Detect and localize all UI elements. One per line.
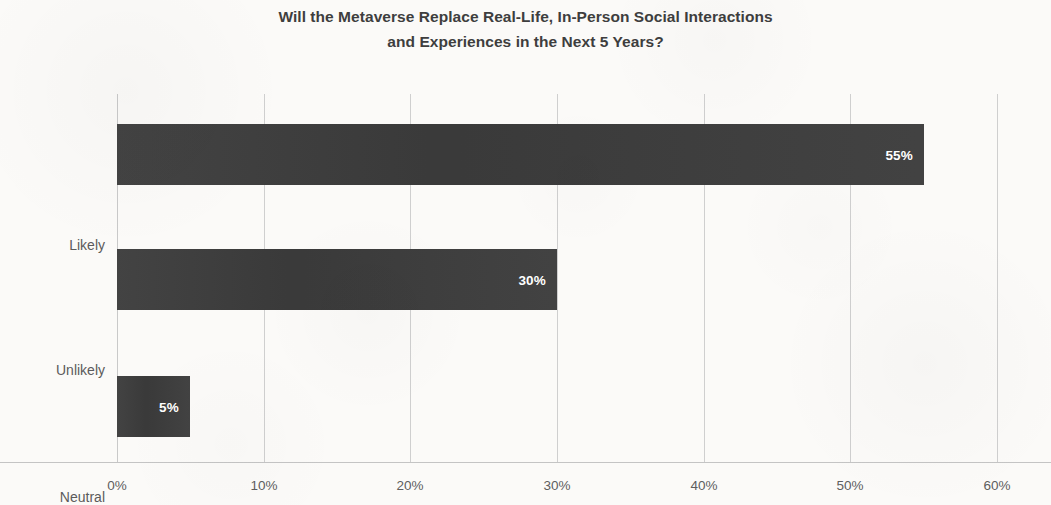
bar-value-unlikely: 30% xyxy=(518,272,546,287)
category-label-likely: Likely xyxy=(0,237,105,253)
bar-row-likely: 55% xyxy=(117,124,924,185)
bar-row-unlikely: 30% xyxy=(117,249,557,310)
bar-neutral: 5% xyxy=(117,376,190,437)
y-axis-category-labels: Likely Unlikely Neutral xyxy=(0,94,105,462)
x-tick-label-0: 0% xyxy=(107,478,127,493)
bar-value-likely: 55% xyxy=(885,147,913,162)
chart-title-line-1: Will the Metaverse Replace Real-Life, In… xyxy=(0,4,1051,29)
x-tick-label-30: 30% xyxy=(543,478,570,493)
x-tick-label-40: 40% xyxy=(690,478,717,493)
gridline-60 xyxy=(997,94,998,462)
bar-value-neutral: 5% xyxy=(159,399,179,414)
x-axis-line xyxy=(0,462,1051,463)
x-tick-label-10: 10% xyxy=(250,478,277,493)
bar-unlikely: 30% xyxy=(117,249,557,310)
x-axis-tick-labels: 0% 10% 20% 30% 40% 50% 60% xyxy=(0,478,1051,500)
x-tick-label-20: 20% xyxy=(396,478,423,493)
plot-area: 55% 30% 5% xyxy=(117,94,997,462)
category-label-unlikely: Unlikely xyxy=(0,362,105,378)
x-tick-label-50: 50% xyxy=(836,478,863,493)
bar-chart: Will the Metaverse Replace Real-Life, In… xyxy=(0,0,1051,505)
chart-title-line-2: and Experiences in the Next 5 Years? xyxy=(0,29,1051,54)
bar-row-neutral: 5% xyxy=(117,376,190,437)
bar-likely: 55% xyxy=(117,124,924,185)
x-tick-label-60: 60% xyxy=(983,478,1010,493)
chart-title: Will the Metaverse Replace Real-Life, In… xyxy=(0,4,1051,54)
